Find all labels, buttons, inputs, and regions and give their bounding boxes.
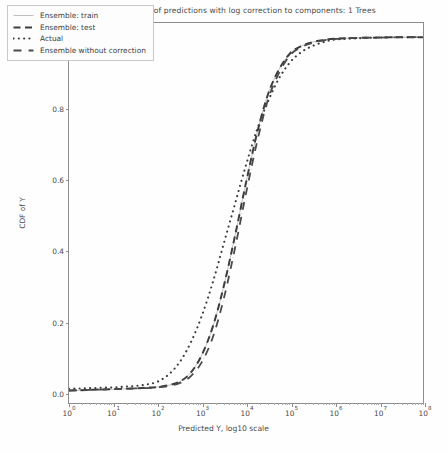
x-minor-tick-mark — [107, 403, 108, 405]
legend-label: Actual — [40, 35, 63, 42]
x-minor-tick-mark — [145, 403, 146, 405]
x-minor-tick-mark — [111, 403, 112, 405]
x-tick-mark — [247, 403, 248, 407]
x-minor-tick-mark — [305, 403, 306, 405]
x-tick-mark — [292, 403, 293, 407]
x-minor-tick-mark — [418, 403, 419, 405]
legend-swatch — [13, 11, 34, 20]
x-tick-label: 108 — [419, 408, 432, 418]
x-minor-tick-mark — [193, 403, 194, 405]
legend-item: Ensemble: train — [13, 10, 146, 22]
x-tick-label: 100 — [63, 408, 76, 418]
x-minor-tick-mark — [376, 403, 377, 405]
x-minor-tick-mark — [216, 403, 217, 405]
x-axis-label: Predicted Y, log10 scale — [178, 424, 269, 433]
x-minor-tick-mark — [148, 403, 149, 405]
x-minor-tick-mark — [374, 403, 375, 405]
x-minor-tick-mark — [151, 403, 152, 405]
x-minor-tick-mark — [285, 403, 286, 405]
legend-label: Ensemble: test — [40, 24, 95, 31]
legend-swatch — [13, 23, 34, 32]
series-line — [69, 37, 423, 390]
x-minor-tick-mark — [282, 403, 283, 405]
y-tick-label: 0.6 — [52, 176, 64, 185]
x-tick-label: 107 — [374, 408, 387, 418]
x-minor-tick-mark — [274, 403, 275, 405]
x-tick-mark — [114, 403, 115, 407]
x-minor-tick-mark — [318, 403, 319, 405]
y-axis-label: CDF of Y — [18, 197, 27, 228]
x-minor-tick-mark — [278, 403, 279, 405]
x-minor-tick-mark — [367, 403, 368, 405]
x-minor-tick-mark — [332, 403, 333, 405]
x-tick-label: 105 — [285, 408, 298, 418]
x-minor-tick-mark — [378, 403, 379, 405]
x-tick-label: 103 — [196, 408, 209, 418]
x-minor-tick-mark — [224, 403, 225, 405]
x-minor-tick-mark — [268, 403, 269, 405]
x-minor-tick-mark — [371, 403, 372, 405]
y-tick-label: 0.0 — [52, 390, 64, 399]
x-minor-tick-mark — [96, 403, 97, 405]
x-minor-tick-mark — [243, 403, 244, 405]
chart-figure: XGBoost Model: CDF of predictions with l… — [0, 0, 447, 452]
y-tick-mark — [66, 109, 70, 110]
x-tick-label: 106 — [330, 408, 343, 418]
y-tick-label: 0.2 — [52, 318, 64, 327]
legend-item: Ensemble without correction — [13, 45, 146, 57]
x-tick-mark — [203, 403, 204, 407]
x-tick-mark — [158, 403, 159, 407]
x-minor-tick-mark — [415, 403, 416, 405]
x-tick-mark — [69, 403, 70, 407]
y-tick-label: 0.8 — [52, 104, 64, 113]
y-tick-mark — [66, 180, 70, 181]
legend-swatch — [13, 46, 34, 55]
x-minor-tick-mark — [237, 403, 238, 405]
x-minor-tick-mark — [82, 403, 83, 405]
x-minor-tick-mark — [135, 403, 136, 405]
x-minor-tick-mark — [329, 403, 330, 405]
x-minor-tick-mark — [407, 403, 408, 405]
x-minor-tick-mark — [245, 403, 246, 405]
x-minor-tick-mark — [196, 403, 197, 405]
series-lines — [69, 23, 423, 403]
y-tick-mark — [66, 323, 70, 324]
x-tick-label: 101 — [107, 408, 120, 418]
x-minor-tick-mark — [240, 403, 241, 405]
legend-item: Actual — [13, 33, 146, 45]
legend-swatch — [13, 34, 34, 43]
x-minor-tick-mark — [104, 403, 105, 405]
x-minor-tick-mark — [287, 403, 288, 405]
x-tick-mark — [381, 403, 382, 407]
x-minor-tick-mark — [289, 403, 290, 405]
x-tick-mark — [425, 403, 426, 407]
x-minor-tick-mark — [179, 403, 180, 405]
chart-legend: Ensemble: trainEnsemble: testActualEnsem… — [7, 5, 154, 61]
x-minor-tick-mark — [334, 403, 335, 405]
legend-label: Ensemble without correction — [40, 47, 146, 54]
x-minor-tick-mark — [200, 403, 201, 405]
y-tick-mark — [66, 251, 70, 252]
x-minor-tick-mark — [357, 403, 358, 405]
x-minor-tick-mark — [423, 403, 424, 405]
x-tick-label: 104 — [241, 408, 254, 418]
x-minor-tick-mark — [171, 403, 172, 405]
y-tick-mark — [66, 394, 70, 395]
x-minor-tick-mark — [189, 403, 190, 405]
y-tick-label: 0.4 — [52, 247, 64, 256]
x-minor-tick-mark — [326, 403, 327, 405]
legend-label: Ensemble: train — [40, 12, 98, 19]
x-minor-tick-mark — [394, 403, 395, 405]
x-minor-tick-mark — [412, 403, 413, 405]
series-line — [69, 37, 423, 389]
x-minor-tick-mark — [349, 403, 350, 405]
x-minor-tick-mark — [402, 403, 403, 405]
x-minor-tick-mark — [421, 403, 422, 405]
plot-axes-area: 0.00.20.40.60.81.01001011021031041051061… — [68, 22, 424, 404]
x-minor-tick-mark — [229, 403, 230, 405]
legend-item: Ensemble: test — [13, 22, 146, 34]
x-minor-tick-mark — [313, 403, 314, 405]
series-line — [69, 37, 423, 390]
x-minor-tick-mark — [363, 403, 364, 405]
x-minor-tick-mark — [323, 403, 324, 405]
